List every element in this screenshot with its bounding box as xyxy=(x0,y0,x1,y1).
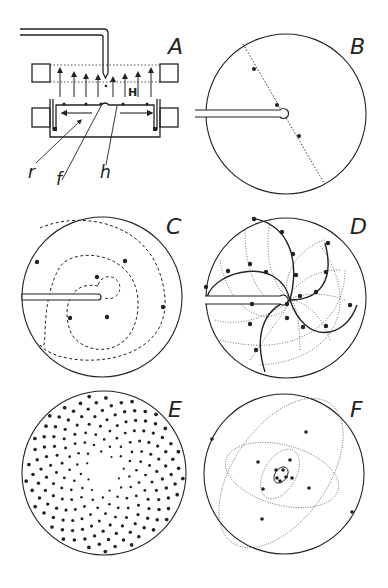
upper-right-pole xyxy=(160,64,178,82)
panel-label-d: D xyxy=(350,214,367,239)
capillary-tube xyxy=(20,29,108,78)
upper-left-pole xyxy=(32,64,50,82)
panel-a: H r f h A xyxy=(20,29,183,189)
phyllotaxis-figure: H r f h A xyxy=(0,0,388,588)
label-h: h xyxy=(100,162,111,182)
panel-label-c: C xyxy=(166,214,182,239)
panel-f: F xyxy=(194,376,369,569)
field-arrows xyxy=(60,70,151,97)
panel-label-a: A xyxy=(166,34,183,59)
dish xyxy=(50,99,160,137)
panel-label-e: E xyxy=(168,397,182,422)
panel-label-b: B xyxy=(350,34,365,59)
lower-left-pole xyxy=(32,108,50,127)
label-f: f xyxy=(56,169,65,189)
panel-c: C xyxy=(22,214,182,377)
panel-label-f: F xyxy=(350,397,363,422)
panel-d: D xyxy=(204,214,367,378)
lower-right-pole xyxy=(160,108,178,127)
phyllotaxis-dots xyxy=(24,395,184,554)
field-label-h: H xyxy=(128,86,137,99)
panel-b: B xyxy=(195,34,366,194)
label-r: r xyxy=(28,162,36,182)
panel-e: E xyxy=(22,391,186,555)
